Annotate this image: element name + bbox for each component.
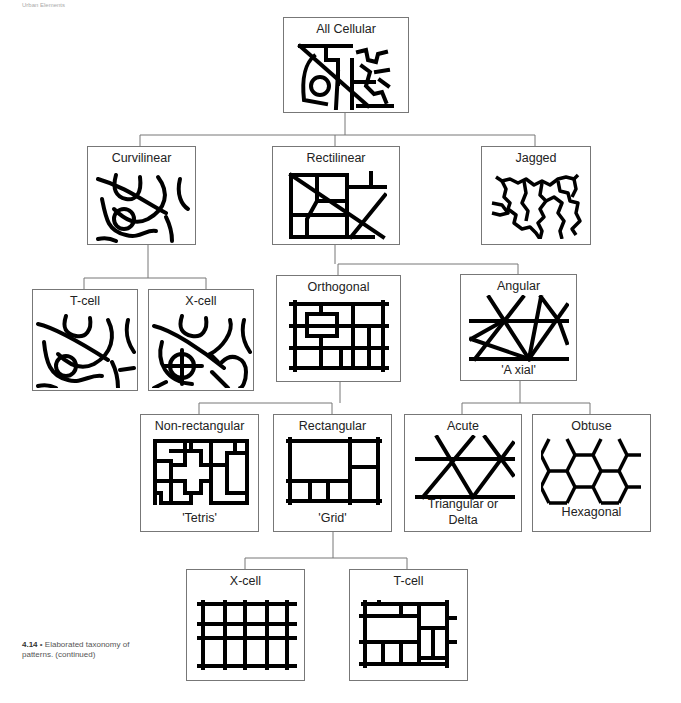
node-curvilinear: Curvilinear: [87, 146, 196, 245]
node-title: Obtuse: [533, 419, 650, 433]
node-title: T-cell: [33, 294, 137, 308]
curvilinear-pattern-icon: [96, 169, 191, 243]
figure-number: 4.14: [22, 640, 38, 649]
caption-bullet: •: [40, 640, 43, 649]
node-jagged: Jagged: [481, 146, 591, 245]
node-title: Non-rectangular: [141, 419, 258, 433]
hexagonal-pattern-icon: [541, 437, 641, 505]
node-t-cell-rectangular: T-cell: [349, 569, 468, 681]
node-title: Angular: [461, 279, 576, 293]
node-title: X-cell: [149, 294, 253, 308]
node-title: T-cell: [350, 574, 467, 588]
node-t-cell-curvilinear: T-cell: [32, 289, 138, 391]
angular-pattern-icon: [469, 295, 569, 363]
node-title: Curvilinear: [88, 151, 195, 165]
node-subtitle: 'Tetris': [141, 511, 258, 526]
node-title: All Cellular: [284, 22, 408, 36]
caption-text: Elaborated taxonomy of patterns. (contin…: [22, 640, 129, 659]
node-subtitle-line-1: Triangular or: [405, 497, 521, 512]
x-cell-grid-pattern-icon: [197, 600, 297, 670]
node-title: Rectilinear: [273, 151, 399, 165]
node-x-cell-rectangular: X-cell: [186, 569, 305, 681]
node-rectilinear: Rectilinear: [272, 146, 400, 245]
node-x-cell-curvilinear: X-cell: [148, 289, 254, 391]
node-orthogonal: Orthogonal: [276, 275, 401, 382]
node-title: X-cell: [187, 574, 304, 588]
node-non-rectangular: Non-rectangular 'Tetris': [140, 414, 259, 532]
node-all-cellular: All Cellular: [283, 17, 409, 113]
triangular-pattern-icon: [415, 435, 515, 501]
mixed-pattern-icon: [296, 42, 396, 110]
node-subtitle: 'A xial': [461, 363, 576, 378]
node-subtitle: Hexagonal: [533, 505, 650, 520]
x-cell-curvilinear-pattern-icon: [152, 312, 252, 388]
orthogonal-pattern-icon: [289, 300, 389, 372]
node-title: Jagged: [482, 151, 590, 165]
node-obtuse: Obtuse Hexagonal: [532, 414, 651, 532]
t-cell-curvilinear-pattern-icon: [36, 312, 136, 388]
node-subtitle: 'Grid': [274, 511, 391, 526]
node-angular: Angular 'A xial': [460, 274, 577, 381]
jagged-pattern-icon: [488, 173, 584, 239]
node-title: Rectangular: [274, 419, 391, 433]
t-cell-grid-pattern-icon: [359, 600, 459, 670]
grid-pattern-icon: [284, 437, 384, 507]
node-acute: Acute Triangular or Delta: [404, 414, 522, 532]
node-subtitle-line-2: Delta: [405, 513, 521, 528]
figure-caption: 4.14 • Elaborated taxonomy of patterns. …: [22, 640, 162, 660]
node-rectangular: Rectangular 'Grid': [273, 414, 392, 532]
rectilinear-pattern-icon: [287, 171, 387, 241]
tetris-pattern-icon: [151, 437, 251, 507]
node-title: Orthogonal: [277, 280, 400, 294]
node-title: Acute: [405, 419, 521, 433]
